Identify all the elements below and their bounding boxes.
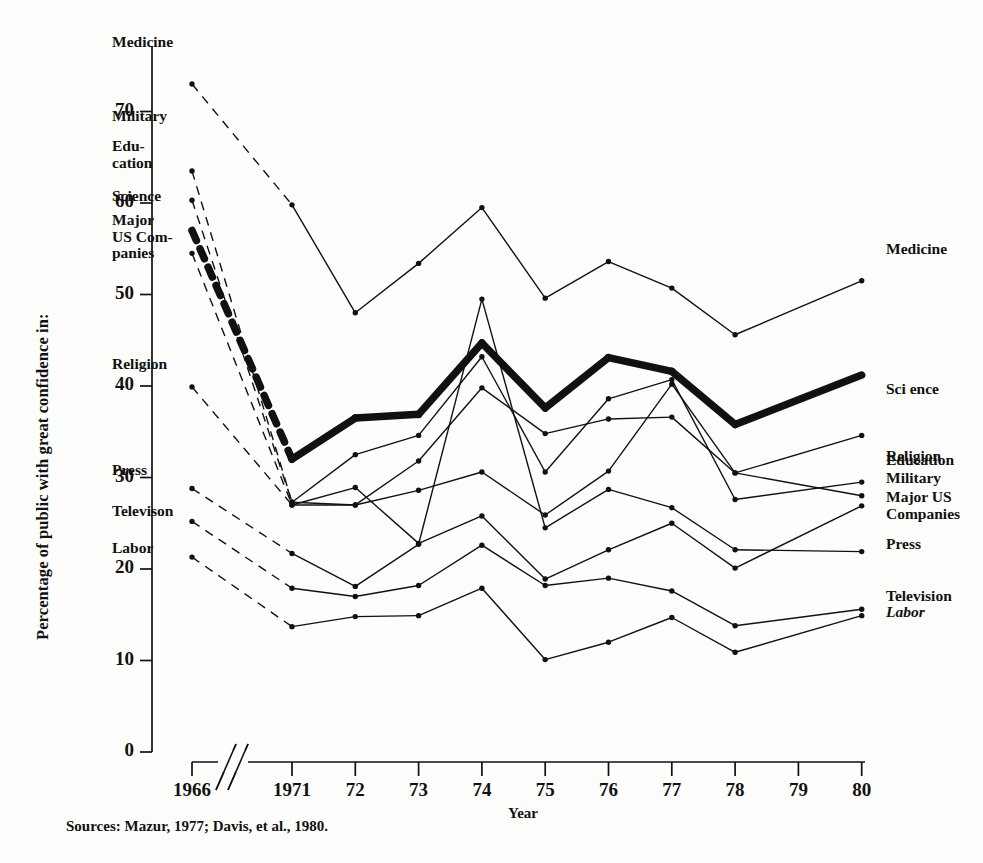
source-note: Sources: Mazur, 1977; Davis, et al., 198… [66, 818, 328, 834]
left-label-television: Televison [112, 503, 173, 520]
x-tick-1966: 1966 [152, 780, 232, 801]
confidence-line-chart: Percentage of public with great confiden… [0, 0, 983, 863]
left-label-labor: Labor [112, 540, 153, 557]
series-medicine [189, 81, 864, 337]
y-axis-title: Percentage of public with great confiden… [34, 313, 52, 640]
plot-canvas [0, 0, 983, 863]
series-science [192, 230, 862, 459]
series-television [189, 519, 864, 629]
right-label-education: Education [886, 452, 954, 469]
y-tick-20: 20 [102, 557, 134, 578]
right-label-military: Military [886, 470, 941, 487]
left-label-education: Edu- cation [112, 138, 152, 171]
right-label-labor: Labor [886, 604, 925, 621]
right-label-press: Press [886, 536, 921, 553]
series-labor [189, 554, 864, 662]
left-label-military: Military [112, 108, 167, 125]
right-label-major-us-companies: Major US Companies [886, 489, 960, 522]
x-axis-title: Year [478, 805, 568, 821]
right-label-science: Sci ence [886, 381, 939, 398]
left-label-religion: Religion [112, 356, 167, 373]
y-tick-0: 0 [102, 740, 134, 761]
left-label-major-us-companies: Major US Com- panies [112, 212, 173, 262]
right-label-medicine: Medicine [886, 241, 947, 258]
y-tick-10: 10 [102, 649, 134, 670]
left-label-science: Science [112, 188, 161, 205]
y-tick-40: 40 [102, 374, 134, 395]
left-label-press: Press [112, 462, 147, 479]
y-tick-50: 50 [102, 283, 134, 304]
series-press [189, 296, 864, 589]
left-label-medicine: Medicine [112, 34, 173, 51]
x-tick-80: 80 [822, 780, 902, 801]
